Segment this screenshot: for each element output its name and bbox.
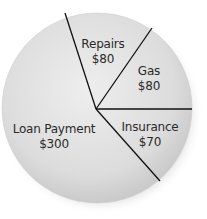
slice-name: Repairs xyxy=(76,37,130,52)
slice-label-insurance: Insurance $70 xyxy=(120,120,180,150)
slice-value: $80 xyxy=(131,79,167,94)
slice-value: $300 xyxy=(12,137,96,152)
slice-name: Insurance xyxy=(120,120,180,135)
pie-chart xyxy=(0,0,207,219)
slice-value: $70 xyxy=(120,135,180,150)
slice-label-loan-payment: Loan Payment $300 xyxy=(12,122,96,152)
slice-label-repairs: Repairs $80 xyxy=(76,37,130,67)
slice-label-gas: Gas $80 xyxy=(131,64,167,94)
slice-name: Loan Payment xyxy=(12,122,96,137)
slice-name: Gas xyxy=(131,64,167,79)
slice-value: $80 xyxy=(76,52,130,67)
